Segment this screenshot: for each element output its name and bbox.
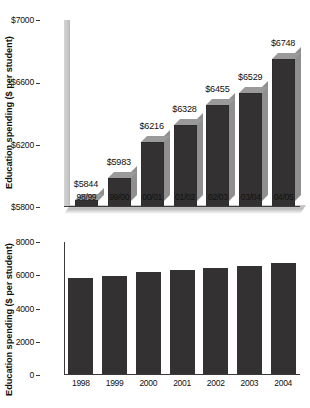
bar-value-label: $6529 [238,72,262,82]
x-axis-tick-label: 1998 [72,378,90,388]
bar-series [64,242,300,375]
x-axis-tick-label: 00/01 [142,192,162,202]
bar: $6748 [272,59,295,207]
x-axis-tick-label: 04/05 [274,192,294,202]
bar-front-face [239,93,262,207]
y-axis-tick-label: 8000 [16,237,40,247]
bar [271,263,296,375]
x-axis-tick-label: 2004 [274,378,292,388]
bar-value-label: $6455 [205,84,229,94]
bar [237,266,262,375]
x-axis-tick-label: 2001 [173,378,191,388]
bar-value-label: $6328 [172,104,196,114]
x-axis-line [64,206,300,207]
x-axis-tick-label: 01/02 [175,192,195,202]
y-axis-tick-label: $6600 [11,77,40,87]
two-bar-charts-figure: Education spending ($ per student) $5800… [0,0,310,408]
y-axis-tick-label: 6000 [16,270,40,280]
x-axis-tick-label: 99/00 [109,192,129,202]
y-axis-tick-label: 0 [29,370,40,380]
y-axis-tick-label: $7000 [11,15,40,25]
bar-value-label: $5983 [107,157,131,167]
plot-area [64,242,300,375]
x-axis-tick-label: 1999 [106,378,124,388]
y-axis-tick-label: $6200 [11,140,40,150]
y-axis-tick-label: $5800 [11,202,40,212]
x-axis-tick-label: 2000 [139,378,157,388]
bar [68,278,93,375]
bar [136,272,161,375]
x-axis-tick-label: 02/03 [208,192,228,202]
bar [170,270,195,375]
y-axis-tick-labels: 02000400060008000 [0,232,40,408]
bar-side-face [262,81,268,201]
bar [102,276,127,375]
bar-side-face [295,47,301,201]
plot-area: $5844$5983$6216$6328$6455$6529$6748 [64,20,300,207]
x-axis-line [64,374,300,375]
bar-front-face [272,59,295,207]
x-axis-tick-label: 98/99 [77,192,97,202]
x-axis-tick-label: 03/04 [241,192,261,202]
x-axis-tick-label: 2003 [241,378,259,388]
x-axis-tick-label: 2002 [207,378,225,388]
bar-value-label: $6216 [140,121,164,131]
bar-value-label: $5844 [74,179,98,189]
bar-side-face [197,113,203,201]
chart-full-axis: Education spending ($ per student) 02000… [0,232,310,408]
bar [203,268,228,375]
bar: $6529 [239,93,262,207]
y-axis-tick-label: 2000 [16,337,40,347]
bar-value-label: $6748 [271,38,295,48]
bar-series: $5844$5983$6216$6328$6455$6529$6748 [70,20,300,207]
y-axis-tick-label: 4000 [16,304,40,314]
chart-truncated-axis: Education spending ($ per student) $5800… [0,0,310,226]
bar-side-face [229,93,235,201]
y-axis-tick-labels: $5800$6200$6600$7000 [0,0,40,226]
